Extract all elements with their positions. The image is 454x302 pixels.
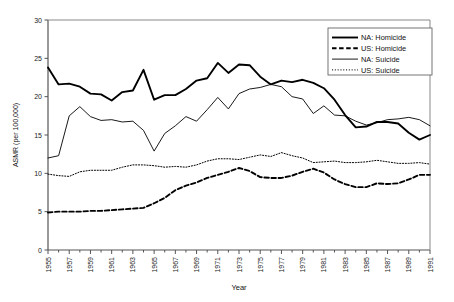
x-tick-label: 1969 <box>193 257 200 273</box>
x-tick-label: 1959 <box>87 257 94 273</box>
legend-label: US: Suicide <box>361 66 400 75</box>
line-chart: 051015202530 195519571959196119631965196… <box>0 0 454 302</box>
x-tick-label: 1979 <box>299 257 306 273</box>
x-tick-label: 1967 <box>172 257 179 273</box>
y-axis-title: ASMR (per 100,000) <box>12 103 20 167</box>
y-tick-label: 20 <box>34 93 42 100</box>
x-tick-label: 1961 <box>108 257 115 273</box>
x-tick-label: 1981 <box>320 257 327 273</box>
x-tick-label: 1971 <box>214 257 221 273</box>
data-series-group <box>48 63 430 213</box>
series-line <box>48 84 430 158</box>
y-tick-label: 15 <box>34 132 42 139</box>
x-tick-label: 1965 <box>151 257 158 273</box>
x-tick-label: 1973 <box>236 257 243 273</box>
legend-label: US: Homicide <box>361 44 406 53</box>
y-tick-label: 10 <box>34 170 42 177</box>
x-tick-label: 1989 <box>405 257 412 273</box>
y-tick-label: 30 <box>34 17 42 24</box>
chart-legend: NA: HomicideUS: HomicideNA: SuicideUS: S… <box>328 28 432 75</box>
legend-label: NA: Suicide <box>361 55 400 64</box>
x-tick-label: 1985 <box>363 257 370 273</box>
x-tick-label: 1963 <box>129 257 136 273</box>
x-tick-label: 1975 <box>257 257 264 273</box>
chart-figure: 051015202530 195519571959196119631965196… <box>0 0 454 302</box>
x-axis-title: Year <box>231 283 247 292</box>
series-line <box>48 168 430 212</box>
series-line <box>48 153 430 177</box>
x-tick-label: 1987 <box>384 257 391 273</box>
legend-label: NA: Homicide <box>361 33 406 42</box>
x-tick-label: 1991 <box>427 257 434 273</box>
y-axis-ticks: 051015202530 <box>34 17 48 254</box>
x-tick-label: 1955 <box>45 257 52 273</box>
y-tick-label: 0 <box>38 247 42 254</box>
x-tick-label: 1983 <box>342 257 349 273</box>
x-tick-label: 1957 <box>66 257 73 273</box>
y-tick-label: 5 <box>38 208 42 215</box>
x-axis-ticks: 1955195719591961196319651967196919711973… <box>45 250 434 273</box>
x-tick-label: 1977 <box>278 257 285 273</box>
y-tick-label: 25 <box>34 55 42 62</box>
